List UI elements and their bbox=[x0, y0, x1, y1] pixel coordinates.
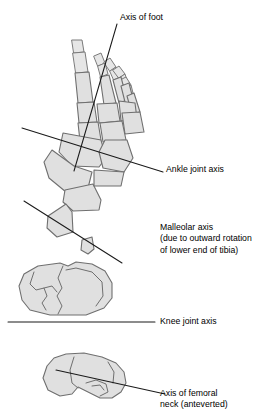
proximal-femur-group bbox=[43, 353, 126, 398]
phalanx-great-toe-distal bbox=[72, 40, 84, 53]
cuneiform-medial bbox=[77, 102, 97, 123]
label-axis-of-foot: Axis of foot bbox=[120, 12, 163, 23]
metatarsal-1 bbox=[75, 72, 93, 103]
anatomical-axes-figure: Axis of foot Ankle joint axis Malleolar … bbox=[0, 0, 270, 418]
foot-skeleton-group bbox=[44, 40, 144, 211]
tibial-plateau-group bbox=[19, 262, 112, 315]
tibial-plateau-outline bbox=[19, 262, 112, 315]
lateral-malleolus bbox=[81, 237, 94, 254]
label-malleolar-axis: Malleolar axis (due to outward rotation … bbox=[160, 222, 252, 256]
diagram-canvas bbox=[0, 0, 270, 418]
calcaneus-lateral-process bbox=[94, 170, 124, 186]
label-femoral-neck-axis-line2: neck (anteverted) bbox=[160, 399, 228, 410]
label-femoral-neck-axis-line1: Axis of femoral bbox=[160, 388, 228, 399]
calcaneus-anterior bbox=[99, 140, 133, 172]
phalanx-great-toe-proximal bbox=[73, 52, 88, 73]
label-knee-joint-axis: Knee joint axis bbox=[160, 316, 217, 327]
medial-malleolus bbox=[47, 204, 73, 237]
cuboid bbox=[122, 112, 144, 134]
label-femoral-neck-axis: Axis of femoral neck (anteverted) bbox=[160, 388, 228, 411]
malleoli-group bbox=[47, 204, 94, 254]
cuneiform-intermediate bbox=[97, 103, 120, 123]
label-malleolar-axis-line3: of lower end of tibia) bbox=[160, 245, 252, 256]
label-malleolar-axis-line2: (due to outward rotation bbox=[160, 233, 252, 244]
navicular-lateral bbox=[100, 121, 126, 142]
label-ankle-joint-axis: Ankle joint axis bbox=[166, 164, 224, 175]
label-malleolar-axis-line1: Malleolar axis bbox=[160, 222, 252, 233]
